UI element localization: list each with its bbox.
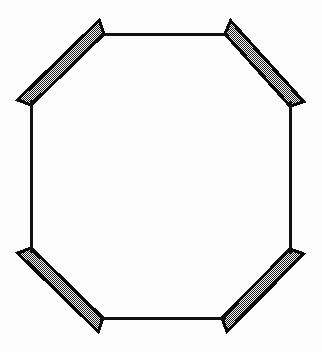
background: [0, 0, 322, 352]
figure-canvas: [0, 0, 322, 352]
octagon-diagram: [0, 0, 322, 352]
